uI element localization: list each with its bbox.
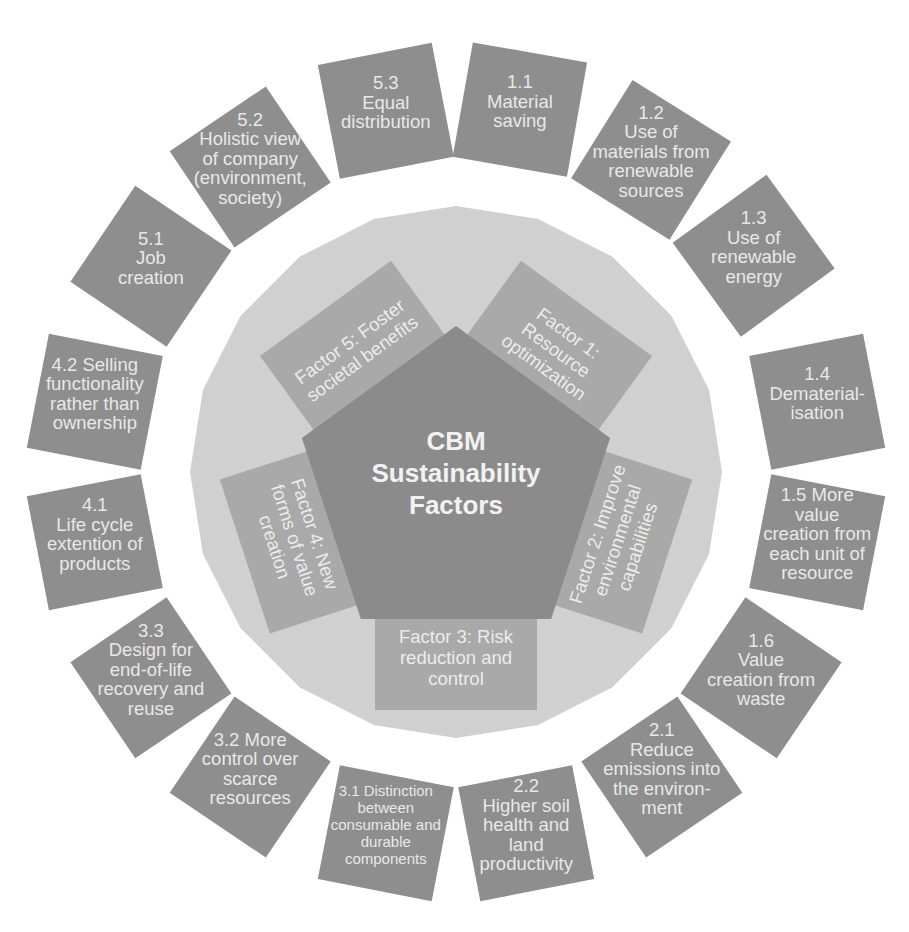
- outer-item-1-5: 1.5 Morevaluecreation fromeach unit ofre…: [749, 474, 885, 610]
- outer-item-label: 3.1 Distinctionbetweenconsumable anddura…: [331, 782, 441, 867]
- outer-item-4-1: 4.1Life cycleextention ofproducts: [27, 474, 163, 610]
- outer-item-2-2: 2.2Higher soilhealth andlandproductivity: [458, 765, 594, 901]
- factor-3-box: Factor 3: Riskreduction andcontrol: [375, 606, 537, 710]
- outer-item-3-1: 3.1 Distinctionbetweenconsumable anddura…: [318, 765, 454, 901]
- outer-item-4-2: 4.2 Sellingfunctionalityrather thanowner…: [27, 334, 163, 470]
- cbm-sustainability-diagram: 1.1Materialsaving1.2Use ofmaterials from…: [0, 0, 909, 932]
- outer-item-1-4: 1.4Dematerial-isation: [749, 334, 885, 470]
- outer-item-label: 4.2 Sellingfunctionalityrather thanowner…: [46, 354, 144, 434]
- outer-item-5-3: 5.3Equaldistribution: [318, 43, 454, 179]
- outer-item-1-1: 1.1Materialsaving: [453, 42, 587, 176]
- outer-item-label: 3.2 Morecontrol overscarceresources: [202, 729, 299, 809]
